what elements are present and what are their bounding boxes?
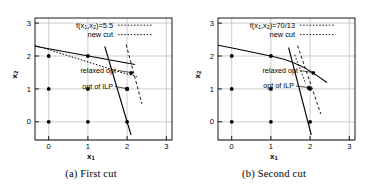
xtick-0: 0 bbox=[47, 142, 51, 151]
opt-of-ILP-marker-a bbox=[125, 87, 129, 91]
ytick-1: 1 bbox=[27, 85, 31, 94]
xtick-2: 2 bbox=[308, 142, 312, 151]
lattice-point bbox=[86, 54, 90, 58]
relaxed-opt-marker-a bbox=[129, 71, 133, 75]
xtick-0: 0 bbox=[230, 142, 234, 151]
y-tick-labels-a: 0 1 2 3 bbox=[27, 19, 31, 127]
legend-label-new-cut-b: new cut bbox=[270, 30, 295, 39]
xtick-3: 3 bbox=[347, 142, 351, 151]
lattice-point bbox=[47, 87, 51, 91]
y-axis-label-b: x2 bbox=[193, 67, 202, 83]
opt-of-ILP-marker-b bbox=[307, 86, 311, 90]
x-axis-label-b: x1 bbox=[183, 152, 365, 161]
legend-label-objective-a: f(x1,x2)=5.5 bbox=[76, 21, 113, 31]
panel-second-cut: 0 1 2 3 0 1 2 3 bbox=[183, 0, 365, 192]
panel-caption-b: (b) Second cut bbox=[183, 168, 365, 179]
panel-caption-a: (a) First cut bbox=[0, 168, 182, 179]
plot-svg-b: 0 1 2 3 0 1 2 3 bbox=[183, 0, 365, 192]
x-axis-label-a: x1 bbox=[0, 152, 182, 161]
xtick-2: 2 bbox=[125, 142, 129, 151]
lattice-point bbox=[230, 87, 234, 91]
legend-label-objective-b: f(x1,x2)=70/13 bbox=[250, 21, 295, 31]
objective-curve-b bbox=[218, 45, 327, 82]
annotation-opt-of-ilp-a: opt of ILP bbox=[82, 82, 113, 91]
ytick-3: 3 bbox=[210, 19, 214, 28]
xtick-1: 1 bbox=[269, 142, 273, 151]
relaxed-opt-marker-b bbox=[311, 71, 315, 75]
lattice-point bbox=[230, 54, 234, 58]
new-cut-line-a bbox=[126, 45, 142, 104]
lattice-point bbox=[47, 120, 51, 124]
lattice-point bbox=[308, 120, 312, 124]
ytick-0: 0 bbox=[210, 117, 214, 126]
annotation-relaxed-opt-b: relaxed opt bbox=[262, 66, 298, 75]
lattice-point bbox=[269, 120, 273, 124]
xtick-3: 3 bbox=[164, 142, 168, 151]
lattice-point bbox=[86, 120, 90, 124]
panel-first-cut: 0 1 2 3 0 1 2 3 bbox=[0, 0, 182, 192]
annotation-opt-of-ilp-b: opt of ILP bbox=[263, 81, 294, 90]
y-axis-label-a: x2 bbox=[10, 67, 19, 83]
plot-svg-a: 0 1 2 3 0 1 2 3 bbox=[0, 0, 182, 192]
annotation-relaxed-opt-a: relaxed opt bbox=[80, 66, 116, 75]
lattice-point bbox=[230, 120, 234, 124]
ytick-2: 2 bbox=[210, 52, 214, 61]
ytick-2: 2 bbox=[27, 52, 31, 61]
lattice-point bbox=[125, 120, 129, 124]
x-tick-labels-a: 0 1 2 3 bbox=[47, 142, 169, 151]
ytick-3: 3 bbox=[27, 19, 31, 28]
legend-label-new-cut-a: new cut bbox=[88, 30, 113, 39]
x-tick-labels-b: 0 1 2 3 bbox=[230, 142, 352, 151]
ytick-0: 0 bbox=[27, 117, 31, 126]
y-tick-labels-b: 0 1 2 3 bbox=[210, 19, 214, 127]
lattice-point bbox=[47, 54, 51, 58]
xtick-1: 1 bbox=[86, 142, 90, 151]
lattice-point bbox=[269, 54, 273, 58]
ytick-1: 1 bbox=[210, 85, 214, 94]
figure-container: 0 1 2 3 0 1 2 3 bbox=[0, 0, 365, 192]
